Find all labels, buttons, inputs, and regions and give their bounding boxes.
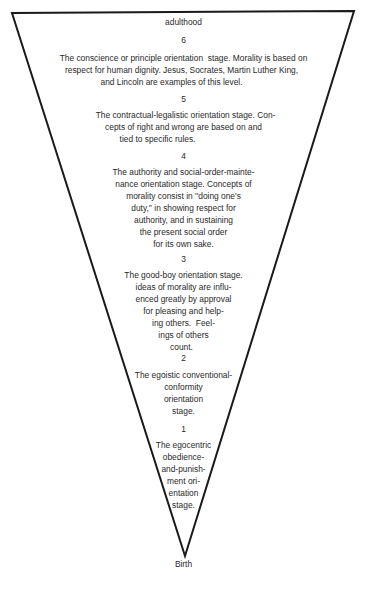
stage-2-number: 2 (0, 352, 367, 364)
stage-2-line: The egoistic conventional- (0, 369, 367, 381)
stage-3-line: for pleasing and help- (0, 305, 367, 317)
stage-3-line: ing others. Feel- (0, 317, 367, 329)
stage-4-number: 4 (0, 150, 367, 162)
stage-5-line: The contractual-legalistic orientation s… (2, 109, 367, 121)
stage-4-line: morality consist in ''doing one's (0, 190, 367, 202)
stage-4-line: The authority and social-order-mainte- (0, 166, 367, 178)
stage-4-line: for its own sake. (0, 238, 367, 250)
stage-3-line: ings of others (0, 329, 367, 341)
stage-3-line: The good-boy orientation stage. (0, 269, 367, 281)
stage-5-line: cepts of right and wrong are based on an… (0, 121, 367, 133)
stage-1-line: entation (0, 487, 367, 499)
top-label-adulthood: adulthood (0, 16, 367, 28)
stage-6-line: respect for human dignity. Jesus, Socrat… (0, 64, 365, 76)
stage-3-line: enced greatly by approval (0, 293, 367, 305)
stage-5-line: tied to specific rules. (0, 133, 341, 145)
stage-2-line: orientation (0, 393, 367, 405)
stage-1-number: 1 (0, 423, 367, 435)
stage-6-line: The conscience or principle orientation … (0, 52, 367, 64)
stage-4-line: nance orientation stage. Concepts of (0, 178, 367, 190)
stage-1-line: ment ori- (0, 475, 367, 487)
stage-2-line: conformity (0, 381, 367, 393)
stage-6-number: 6 (0, 34, 367, 46)
stage-1-line: The egocentric (0, 439, 367, 451)
stage-5-number: 5 (0, 93, 367, 105)
stage-4-line: duty,'' in showing respect for (0, 202, 367, 214)
stage-2-line: stage. (0, 405, 367, 417)
stage-1-line: stage. (0, 499, 367, 511)
stage-4-line: authority, and in sustaining (0, 214, 367, 226)
stage-3-line: ideas of morality are influ- (0, 281, 367, 293)
stage-6-line: and Lincoln are examples of this level. (0, 76, 355, 88)
stage-3-number: 3 (0, 253, 367, 265)
stage-4-line: the present social order (0, 226, 367, 238)
stage-1-line: obedience- (0, 451, 367, 463)
bottom-label-birth: Birth (0, 558, 367, 570)
stage-1-line: and-punish- (0, 463, 367, 475)
